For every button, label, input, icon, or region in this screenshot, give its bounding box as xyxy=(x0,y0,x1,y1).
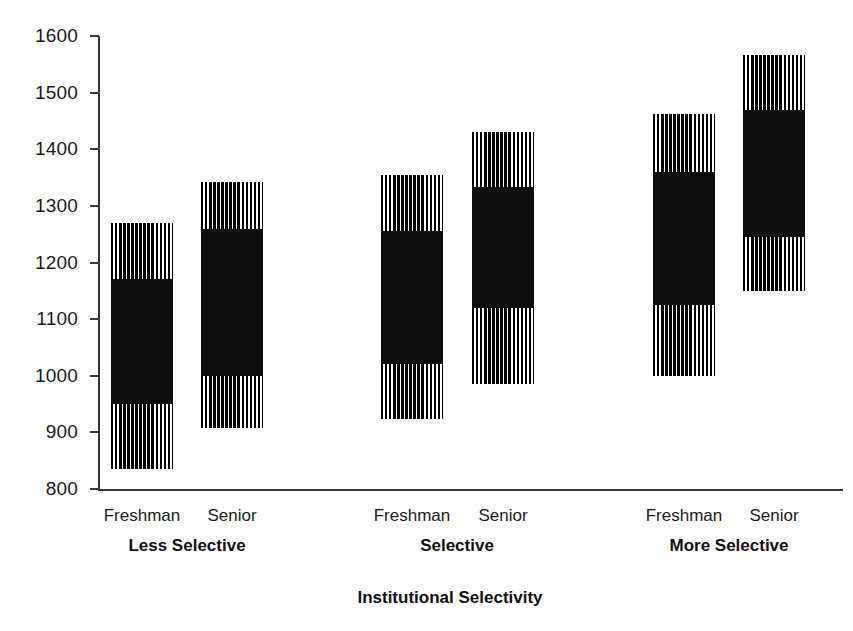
bar-box xyxy=(111,279,173,404)
y-axis-tick xyxy=(90,318,99,320)
range-bar xyxy=(472,132,534,384)
y-axis-tick xyxy=(90,148,99,150)
bar-upper-range xyxy=(201,182,263,228)
group-label: More Selective xyxy=(669,537,788,554)
bar-lower-range xyxy=(653,305,715,376)
bar-upper-range xyxy=(653,114,715,172)
range-bar xyxy=(653,114,715,376)
range-bar xyxy=(743,55,805,291)
x-axis-line xyxy=(98,489,843,491)
y-axis-tick xyxy=(90,488,99,490)
y-axis-tick xyxy=(90,92,99,94)
bar-upper-range xyxy=(472,132,534,187)
bar-upper-range xyxy=(381,175,443,232)
y-axis-tick-label: 1000 xyxy=(0,366,78,385)
bar-lower-range xyxy=(472,308,534,384)
y-axis-tick xyxy=(90,431,99,433)
y-axis-tick-label: 1100 xyxy=(0,309,78,328)
chart-container: 1600150014001300120011001000900800 Fresh… xyxy=(0,0,853,631)
bar-upper-range xyxy=(743,55,805,110)
y-axis-tick-label: 1400 xyxy=(0,139,78,158)
category-label: Senior xyxy=(207,507,256,524)
category-label: Freshman xyxy=(104,507,181,524)
x-axis-title: Institutional Selectivity xyxy=(357,589,542,606)
bar-lower-range xyxy=(381,364,443,418)
bar-box xyxy=(653,172,715,305)
range-bar xyxy=(381,175,443,419)
range-bar xyxy=(111,223,173,469)
bar-box xyxy=(381,231,443,364)
y-axis-tick-label: 1500 xyxy=(0,83,78,102)
bar-box xyxy=(201,229,263,376)
y-axis-tick-label: 1300 xyxy=(0,196,78,215)
category-label: Freshman xyxy=(374,507,451,524)
bar-lower-range xyxy=(111,404,173,469)
group-label: Selective xyxy=(420,537,494,554)
y-axis-tick xyxy=(90,205,99,207)
y-axis-tick-label: 1600 xyxy=(0,26,78,45)
y-axis-tick xyxy=(90,262,99,264)
bar-upper-range xyxy=(111,223,173,280)
y-axis-tick-label: 1200 xyxy=(0,253,78,272)
bar-box xyxy=(472,187,534,308)
range-bar xyxy=(201,182,263,428)
y-axis-line xyxy=(98,36,100,491)
y-axis-tick-label: 900 xyxy=(0,422,78,441)
group-label: Less Selective xyxy=(128,537,245,554)
category-label: Freshman xyxy=(646,507,723,524)
category-label: Senior xyxy=(749,507,798,524)
y-axis-tick xyxy=(90,375,99,377)
bar-lower-range xyxy=(743,237,805,291)
y-axis-tick xyxy=(90,35,99,37)
y-axis-tick-label: 800 xyxy=(0,479,78,498)
bar-lower-range xyxy=(201,376,263,428)
bar-box xyxy=(743,110,805,237)
category-label: Senior xyxy=(478,507,527,524)
